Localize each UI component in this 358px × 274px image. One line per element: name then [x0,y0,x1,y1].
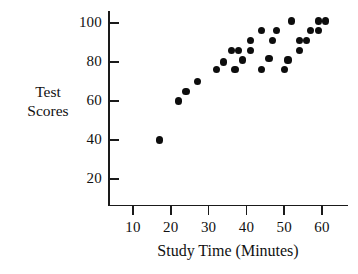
x-tick-30 [208,206,210,215]
y-tick-60 [110,100,119,102]
y-tick-label-100: 100 [62,15,102,30]
data-point [156,136,163,143]
data-point [239,56,246,63]
data-point [303,37,310,44]
x-tick-40 [246,206,248,215]
x-axis-title: Study Time (Minutes) [99,243,357,259]
y-axis-title: Test Scores [2,82,94,120]
data-point [296,47,303,54]
data-point [284,56,291,63]
data-point [182,88,189,95]
data-point [322,17,329,24]
scatter-chart: 20406080100 102030405060 Test Scores Stu… [0,0,358,274]
data-point [296,37,303,44]
y-tick-label-80: 80 [62,54,102,69]
y-tick-label-40: 40 [62,132,102,147]
x-tick-60 [321,206,323,215]
x-tick-10 [132,206,134,215]
y-axis-line [108,11,110,206]
data-point [247,37,254,44]
y-tick-40 [110,139,119,141]
x-tick-label-20: 20 [151,220,191,235]
data-point [258,27,265,34]
data-point [194,78,201,85]
data-point [269,37,276,44]
x-tick-label-10: 10 [113,220,153,235]
y-tick-label-20: 20 [62,171,102,186]
y-tick-80 [110,61,119,63]
data-point [288,17,295,24]
x-tick-50 [283,206,285,215]
data-point [228,47,235,54]
data-point [265,55,272,62]
data-point [175,97,182,104]
data-point [235,47,242,54]
x-tick-label-60: 60 [302,220,342,235]
data-point [307,27,314,34]
data-point [258,66,265,73]
data-point [220,58,227,65]
data-point [273,27,280,34]
data-point [247,47,254,54]
data-point [315,27,322,34]
x-tick-20 [170,206,172,215]
x-tick-label-40: 40 [226,220,266,235]
y-tick-100 [110,22,119,24]
data-point [315,17,322,24]
y-tick-20 [110,178,119,180]
x-tick-label-50: 50 [264,220,304,235]
y-axis-title-line-1: Test [2,82,94,101]
data-point [231,66,238,73]
x-tick-label-30: 30 [189,220,229,235]
data-point [213,66,220,73]
x-axis-line [108,205,348,207]
data-point [281,66,288,73]
y-axis-title-line-2: Scores [2,101,94,120]
